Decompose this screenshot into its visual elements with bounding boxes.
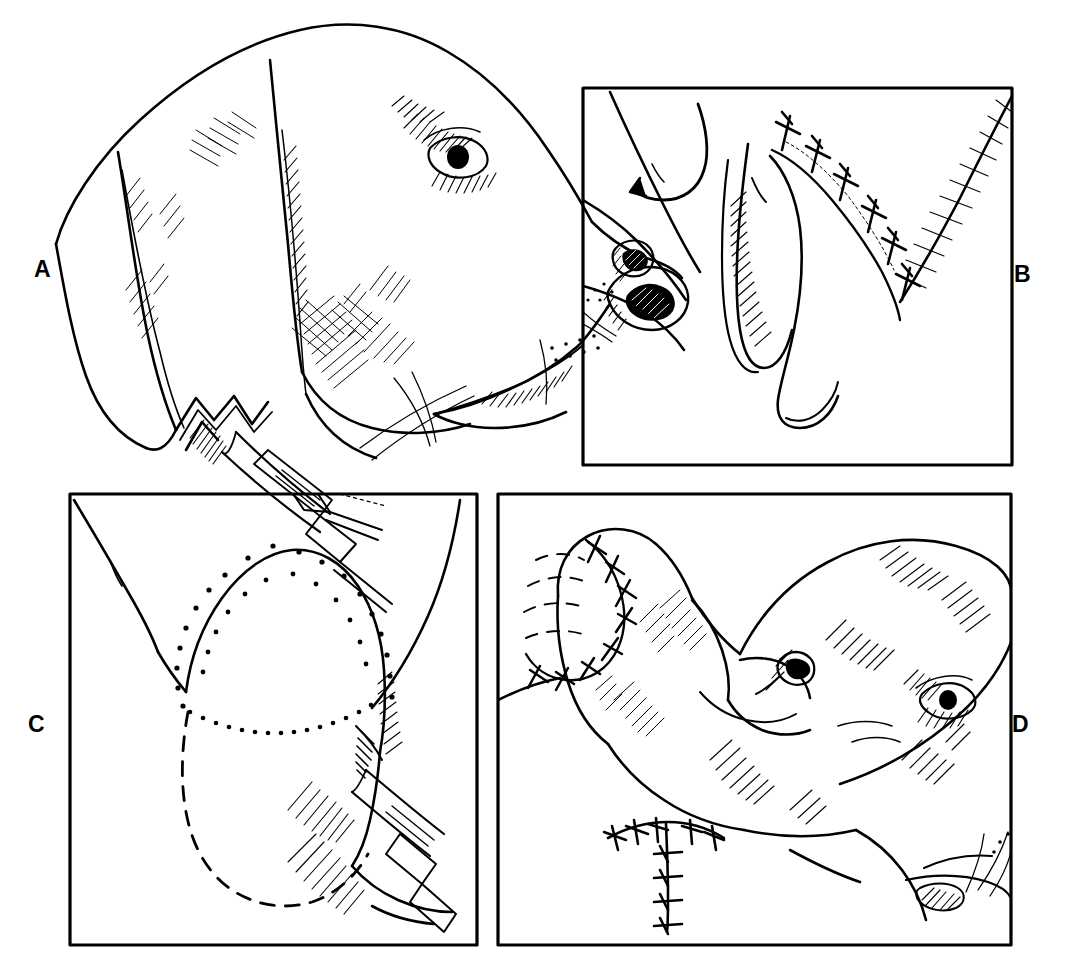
panel-b-frame <box>583 88 1012 465</box>
panel-d-frame <box>498 494 1011 945</box>
panel-label-a: A <box>34 258 51 281</box>
panel-label-c: C <box>28 713 45 736</box>
suture-stitches-b <box>776 112 920 300</box>
panel-label-b: B <box>1014 263 1031 286</box>
eye-a <box>424 128 488 178</box>
figure-container: A B C D <box>0 0 1084 974</box>
panel-c-artwork <box>74 492 460 932</box>
panel-c-frame <box>70 494 477 945</box>
resection-outline-dotted <box>174 543 394 708</box>
panel-b-artwork <box>583 92 1012 428</box>
panel-d-artwork <box>498 529 1012 934</box>
scalpel-a <box>222 432 392 612</box>
nose-d <box>778 652 815 685</box>
panel-label-d: D <box>1012 713 1029 736</box>
hidden-margin-dashed <box>182 712 368 906</box>
t-shaped-suture-line <box>604 818 724 934</box>
scalpel-c-blade <box>352 770 456 932</box>
illustration-canvas <box>0 0 1084 974</box>
panel-a-artwork <box>56 25 688 464</box>
